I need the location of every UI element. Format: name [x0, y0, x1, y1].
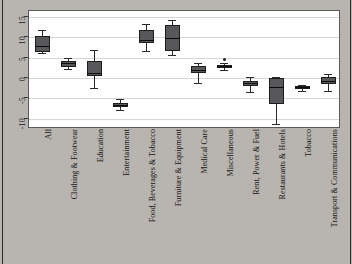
figure-border-right [350, 0, 351, 264]
box-iqr [35, 36, 50, 51]
whisker-cap-lower [142, 51, 150, 52]
median-line [87, 73, 102, 74]
box-plot-item[interactable] [211, 11, 237, 129]
box-plot-item[interactable] [29, 11, 55, 129]
whisker-cap-lower [272, 124, 280, 125]
x-axis-tick-label: Medical Care [200, 129, 209, 174]
whisker-cap-lower [194, 83, 202, 84]
whisker-upper [94, 50, 95, 61]
box-plot-item[interactable] [237, 11, 263, 129]
whisker-cap-lower [324, 91, 332, 92]
median-line [165, 38, 180, 39]
box-plot-item[interactable] [55, 11, 81, 129]
whisker-cap-lower [116, 110, 124, 111]
box-plot-item[interactable] [159, 11, 185, 129]
median-line [139, 40, 154, 41]
whisker-lower [146, 43, 147, 51]
y-axis-tick-label: -10 [18, 118, 27, 129]
x-axis-tick-label: Food, Beverages & Tobacco [148, 129, 157, 222]
median-line [295, 87, 310, 88]
plot-area [28, 10, 340, 128]
whisker-cap-upper [90, 50, 98, 51]
x-axis-tick-label: All [44, 129, 53, 140]
whisker-cap-upper [246, 77, 254, 78]
outlier-point [223, 58, 226, 61]
whisker-cap-lower [64, 69, 72, 70]
whisker-cap-lower [168, 55, 176, 56]
whisker-lower [328, 84, 329, 91]
box-plot-item[interactable] [133, 11, 159, 129]
box-plot-item[interactable] [107, 11, 133, 129]
x-axis-tick-label: Rent, Power & Fuel [252, 129, 261, 195]
median-line [113, 105, 128, 106]
whisker-cap-lower [90, 88, 98, 89]
box-plot-item[interactable] [289, 11, 315, 129]
x-axis-tick-label: Miscellaneous [226, 129, 235, 177]
whisker-cap-upper [324, 74, 332, 75]
x-axis-tick-label: Tobacco [304, 129, 313, 157]
x-axis-tick-label: Clothing & Footwear [70, 129, 79, 199]
median-line [243, 83, 258, 84]
whisker-lower [276, 104, 277, 124]
whisker-cap-upper [116, 99, 124, 100]
whisker-cap-lower [220, 70, 228, 71]
box-iqr [269, 78, 284, 104]
box-plot-item[interactable] [81, 11, 107, 129]
y-axis: 151050-5-10 [0, 0, 28, 264]
whisker-cap-upper [38, 30, 46, 31]
box-plot-item[interactable] [315, 11, 341, 129]
box-iqr [139, 30, 154, 43]
whisker-cap-upper [168, 20, 176, 21]
y-axis-tick-label: 10 [18, 36, 27, 44]
y-axis-tick-label: -5 [18, 97, 27, 104]
median-line [217, 66, 232, 67]
median-line [35, 46, 50, 47]
whisker-cap-upper [194, 63, 202, 64]
y-axis-tick-label: 5 [18, 57, 27, 61]
figure: 151050-5-10 AllClothing & FootwearEducat… [0, 0, 352, 264]
whisker-cap-lower [38, 53, 46, 54]
x-axis-tick-label: Entertainment [122, 129, 131, 176]
whisker-lower [198, 73, 199, 83]
y-axis-tick-label: 0 [18, 77, 27, 81]
median-line [269, 87, 284, 88]
x-axis-labels: AllClothing & FootwearEducationEntertain… [28, 129, 340, 261]
median-line [321, 81, 336, 82]
x-axis-tick-label: Education [96, 129, 105, 162]
box-plot-item[interactable] [263, 11, 289, 129]
whisker-cap-lower [246, 92, 254, 93]
x-axis-tick-label: Furniture & Equipment [174, 129, 183, 206]
whisker-cap-upper [64, 58, 72, 59]
box-plot-item[interactable] [185, 11, 211, 129]
x-axis-tick-label: Restaurants & Hotels [278, 129, 287, 199]
median-line [191, 70, 206, 71]
y-axis-tick-label: 15 [18, 16, 27, 24]
whisker-lower [94, 76, 95, 89]
median-line [61, 63, 76, 64]
whisker-cap-lower [298, 91, 306, 92]
x-axis-tick-label: Transport & Communications [330, 129, 339, 227]
whisker-cap-upper [142, 24, 150, 25]
